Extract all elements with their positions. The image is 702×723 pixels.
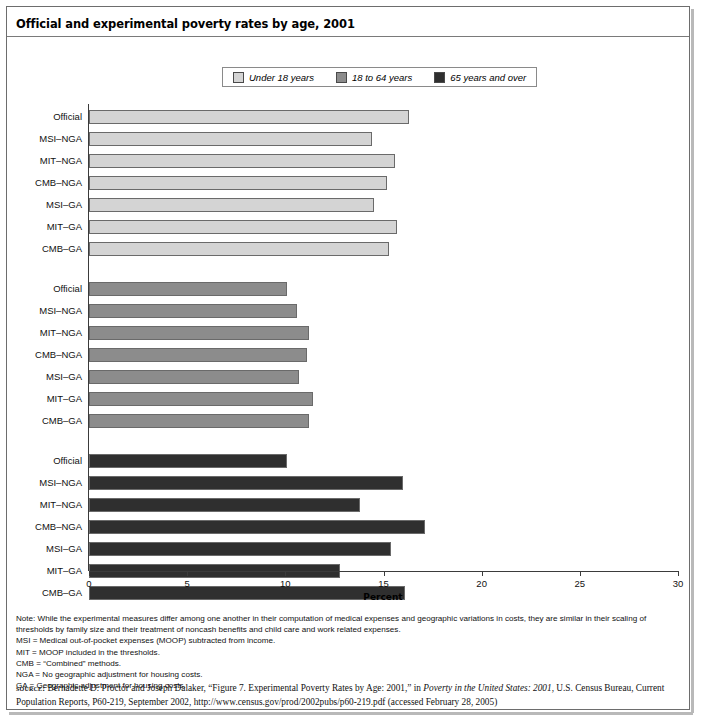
category-label: MSI–NGA [39,133,82,144]
legend-swatch-icon [336,72,347,83]
category-label: CMB–GA [42,587,82,598]
x-tick [187,571,188,576]
bar-row [89,304,678,318]
bar-row [89,132,678,146]
bar-row [89,454,678,468]
bar [89,392,313,406]
bar [89,586,405,600]
category-label: MSI–GA [46,199,82,210]
category-label: CMB–NGA [35,521,82,532]
bar [89,326,309,340]
bar [89,132,372,146]
note-line-1: Note: While the experimental measures di… [16,613,686,624]
category-label: Official [53,455,82,466]
source-part-1: Bernadette D. Proctor and Joseph Dalaker… [45,683,423,693]
note-line-5: CMB = “Combined” methods. [16,658,686,669]
note-line-2: thresholds by family size and their trea… [16,624,686,635]
figure-page: Official and experimental poverty rates … [0,0,702,723]
bar-row [89,520,678,534]
x-tick-label: 15 [378,578,389,589]
category-label: MIT–GA [47,565,82,576]
bar-row [89,370,678,384]
frame-shadow [9,712,693,715]
category-label: MIT–GA [47,221,82,232]
bar [89,304,297,318]
bar-row [89,242,678,256]
note-line-6: NGA = No geographic adjustment for housi… [16,669,686,680]
bar [89,454,287,468]
x-tick [89,571,90,576]
source-italic-title: Poverty in the United States: 2001 [423,683,551,693]
x-tick [285,571,286,576]
x-tick [384,571,385,576]
bar [89,520,425,534]
bar [89,414,309,428]
category-label: MSI–NGA [39,305,82,316]
bar [89,110,409,124]
bar [89,498,360,512]
bar [89,542,391,556]
legend-swatch-icon [233,72,244,83]
legend-item: 18 to 64 years [336,72,412,83]
category-label: MIT–NGA [40,499,82,510]
bar [89,242,389,256]
x-tick-label: 30 [673,578,684,589]
category-label: MSI–NGA [39,477,82,488]
x-tick [580,571,581,576]
title-divider [7,36,689,37]
x-tick [482,571,483,576]
bar-row [89,498,678,512]
x-axis-title: Percent [363,592,402,602]
x-tick-label: 0 [86,578,91,589]
legend-label: 65 years and over [450,72,526,83]
bar [89,370,299,384]
bar [89,476,403,490]
x-tick-label: 25 [575,578,586,589]
bar-row [89,414,678,428]
legend-item: Under 18 years [233,72,314,83]
legend-label: Under 18 years [249,72,314,83]
category-label: MSI–GA [46,371,82,382]
bar-row [89,176,678,190]
category-label: CMB–NGA [35,177,82,188]
bar [89,176,387,190]
x-tick-label: 20 [476,578,487,589]
plot-area [89,104,678,571]
figure-notes: Note: While the experimental measures di… [16,613,686,691]
legend-swatch-icon [434,72,445,83]
figure-source: source: Bernadette D. Proctor and Joseph… [16,682,688,708]
category-axis-labels: OfficialMSI–NGAMIT–NGACMB–NGAMSI–GAMIT–G… [0,104,82,571]
bar-row [89,282,678,296]
bar-row [89,198,678,212]
source-label: source: [16,684,45,693]
category-label: MIT–NGA [40,327,82,338]
bar-row [89,154,678,168]
bar [89,348,307,362]
bar [89,282,287,296]
frame-shadow-right [691,9,694,713]
bar-row [89,392,678,406]
x-tick [678,571,679,576]
note-line-4: MIT = MOOP included in the thresholds. [16,647,686,658]
bar-row [89,326,678,340]
chart-legend: Under 18 years18 to 64 years65 years and… [222,67,537,87]
x-tick-label: 5 [185,578,190,589]
note-line-3: MSI = Medical out-of-pocket expenses (MO… [16,635,686,646]
category-label: CMB–NGA [35,349,82,360]
category-label: CMB–GA [42,243,82,254]
legend-label: 18 to 64 years [352,72,412,83]
legend-item: 65 years and over [434,72,526,83]
bar [89,198,374,212]
bar-row [89,542,678,556]
category-label: CMB–GA [42,415,82,426]
category-label: MSI–GA [46,543,82,554]
bar-row [89,476,678,490]
category-label: MIT–NGA [40,155,82,166]
category-label: MIT–GA [47,393,82,404]
category-label: Official [53,111,82,122]
bar-row [89,348,678,362]
bar [89,154,395,168]
category-label: Official [53,283,82,294]
bar [89,220,397,234]
figure-title: Official and experimental poverty rates … [16,17,355,31]
